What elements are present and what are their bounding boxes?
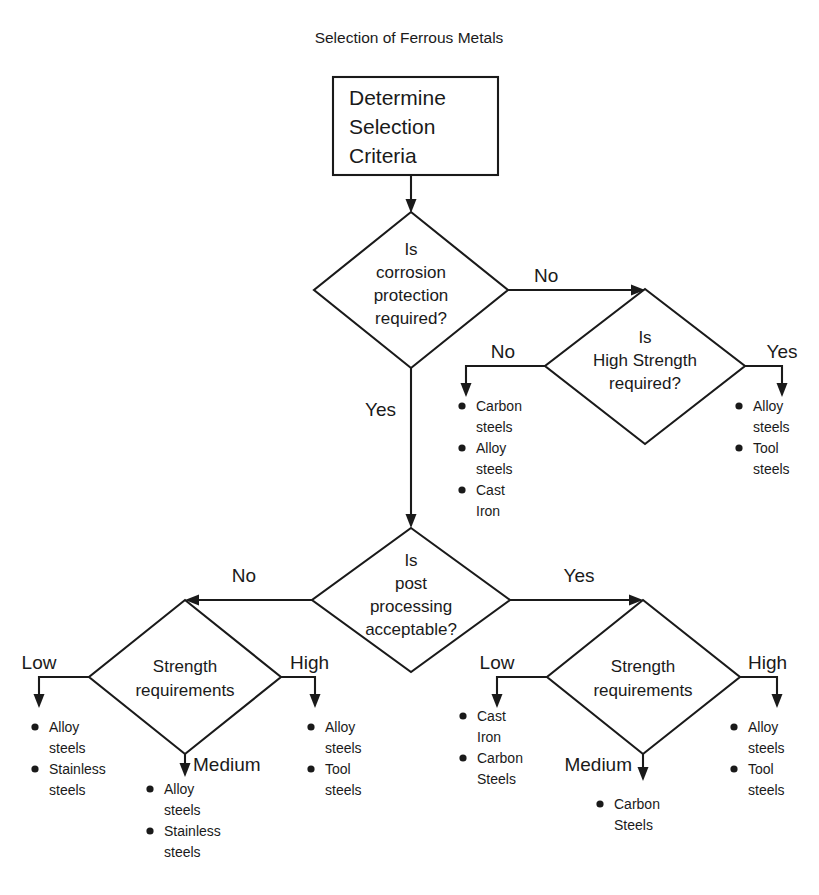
corrosion-line-1: Is (404, 240, 417, 259)
edge-strength-left-medium: Medium (180, 754, 261, 777)
left-medium-item-1-line-0: Stainless (164, 823, 221, 839)
hs-yes-item-1-line-1: steels (753, 461, 790, 477)
hs-yes-item-1-line-0: Tool (753, 440, 779, 456)
start-box-line-3: Criteria (349, 144, 417, 167)
page-title: Selection of Ferrous Metals (315, 29, 504, 46)
left-medium-item-0-line-0: Alloy (164, 781, 194, 797)
edge-strength-right-low: Low (480, 652, 547, 708)
strength-right-line-2: requirements (593, 681, 692, 700)
left-high-item-0-line-0: Alloy (325, 719, 355, 735)
right-high-item-0-line-1: steels (748, 740, 785, 756)
edge-post-processing-no: No (185, 565, 312, 606)
hs-yes-item-0-line-1: steels (753, 419, 790, 435)
edge-label-strength-right-medium: Medium (564, 754, 632, 775)
left-low-item-0-line-1: steels (49, 740, 86, 756)
left-low-item-0-line-0: Alloy (49, 719, 79, 735)
outcome-list-strength-left-medium: Alloy steels Stainless steels (146, 781, 220, 860)
right-high-item-0-line-0: Alloy (748, 719, 778, 735)
hs-no-item-2-line-1: Iron (476, 503, 500, 519)
outcome-list-strength-right-medium: Carbon Steels (596, 796, 660, 833)
high-strength-line-1: Is (638, 328, 651, 347)
edge-label-strength-left-medium: Medium (193, 754, 261, 775)
right-medium-item-0-line-1: Steels (614, 817, 653, 833)
hs-no-item-1-line-0: Alloy (476, 440, 506, 456)
edge-high-strength-no: No (461, 341, 546, 397)
edge-high-strength-yes: Yes (745, 341, 798, 397)
hs-yes-item-0-line-0: Alloy (753, 398, 783, 414)
edge-label-corrosion-no: No (534, 265, 558, 286)
right-medium-item-0-line-0: Carbon (614, 796, 660, 812)
edge-label-high-strength-no: No (491, 341, 515, 362)
node-is-corrosion-protection-required: Is corrosion protection required? (314, 212, 508, 368)
edge-corrosion-yes: Yes (365, 368, 417, 528)
edge-label-strength-left-low: Low (22, 652, 57, 673)
high-strength-line-2: High Strength (593, 351, 697, 370)
right-high-item-1-line-1: steels (748, 782, 785, 798)
edge-start-to-corrosion (406, 175, 417, 213)
post-processing-line-1: Is (404, 551, 417, 570)
hs-no-item-1-line-1: steels (476, 461, 513, 477)
edge-label-high-strength-yes: Yes (767, 341, 798, 362)
edge-corrosion-no: No (508, 265, 645, 296)
edge-label-strength-left-high: High (290, 652, 329, 673)
right-high-item-1-line-0: Tool (748, 761, 774, 777)
node-strength-requirements-right: Strength requirements (547, 600, 740, 754)
outcome-list-high-strength-no: Carbon steels Alloy steels Cast Iron (458, 398, 522, 519)
post-processing-line-4: acceptable? (365, 620, 457, 639)
high-strength-line-3: required? (609, 374, 681, 393)
post-processing-line-3: processing (370, 597, 452, 616)
left-high-item-1-line-1: steels (325, 782, 362, 798)
outcome-list-strength-left-low: Alloy steels Stainless steels (31, 719, 105, 798)
outcome-list-strength-left-high: Alloy steels Tool steels (307, 719, 361, 798)
right-low-item-1-line-0: Carbon (477, 750, 523, 766)
flowchart-canvas: Selection of Ferrous Metals Determine Se… (0, 0, 819, 895)
edge-label-strength-right-low: Low (480, 652, 515, 673)
corrosion-line-3: protection (374, 286, 449, 305)
start-box-line-2: Selection (349, 115, 435, 138)
hs-no-item-2-line-0: Cast (476, 482, 505, 498)
post-processing-line-2: post (395, 574, 427, 593)
hs-no-item-0-line-1: steels (476, 419, 513, 435)
strength-right-line-1: Strength (611, 657, 675, 676)
edge-strength-right-medium: Medium (564, 754, 648, 781)
left-medium-item-0-line-1: steels (164, 802, 201, 818)
node-strength-requirements-left: Strength requirements (89, 600, 281, 754)
node-determine-selection-criteria: Determine Selection Criteria (333, 77, 498, 175)
hs-no-item-0-line-0: Carbon (476, 398, 522, 414)
edge-strength-right-high: High (740, 652, 787, 708)
node-is-high-strength-required: Is High Strength required? (545, 289, 745, 444)
edge-label-corrosion-yes: Yes (365, 399, 396, 420)
outcome-list-high-strength-yes: Alloy steels Tool steels (735, 398, 789, 477)
edge-label-strength-right-high: High (748, 652, 787, 673)
right-low-item-0-line-1: Iron (477, 729, 501, 745)
right-low-item-0-line-0: Cast (477, 708, 506, 724)
outcome-list-strength-right-high: Alloy steels Tool steels (730, 719, 784, 798)
edge-strength-left-high: High (281, 652, 329, 708)
strength-left-line-1: Strength (153, 657, 217, 676)
left-low-item-1-line-0: Stainless (49, 761, 106, 777)
node-is-post-processing-acceptable: Is post processing acceptable? (312, 528, 510, 672)
left-high-item-1-line-0: Tool (325, 761, 351, 777)
edge-label-post-processing-no: No (232, 565, 256, 586)
left-medium-item-1-line-1: steels (164, 844, 201, 860)
edge-post-processing-yes: Yes (510, 565, 643, 606)
corrosion-line-4: required? (375, 309, 447, 328)
left-low-item-1-line-1: steels (49, 782, 86, 798)
strength-left-line-2: requirements (135, 681, 234, 700)
edge-strength-left-low: Low (22, 652, 89, 708)
start-box-line-1: Determine (349, 86, 446, 109)
outcome-list-strength-right-low: Cast Iron Carbon Steels (459, 708, 523, 787)
corrosion-line-2: corrosion (376, 263, 446, 282)
right-low-item-1-line-1: Steels (477, 771, 516, 787)
left-high-item-0-line-1: steels (325, 740, 362, 756)
edge-label-post-processing-yes: Yes (564, 565, 595, 586)
